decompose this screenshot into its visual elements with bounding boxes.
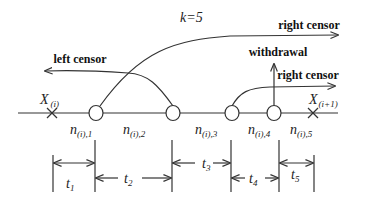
node-label-4: n(i),4 bbox=[248, 122, 271, 139]
node-circle-4 bbox=[267, 106, 281, 121]
node-circle-1 bbox=[89, 106, 103, 121]
node-circle-3 bbox=[225, 106, 239, 121]
right-censor-bottom-label: right censor bbox=[277, 68, 339, 82]
right-censor-top-label: right censor bbox=[278, 18, 340, 32]
interval-label-t1: t1 bbox=[66, 176, 74, 193]
interval-label-t5: t5 bbox=[291, 167, 300, 184]
node-circle-2 bbox=[166, 106, 180, 121]
cross-label-x-i-plus-1: X(i+1) bbox=[308, 92, 338, 109]
k-label: k=5 bbox=[180, 10, 203, 25]
node-label-5: n(i),5 bbox=[290, 122, 313, 139]
cross-label-x-i: X(i) bbox=[39, 92, 59, 109]
interval-label-t3: t3 bbox=[202, 156, 211, 173]
interval-label-t4: t4 bbox=[249, 171, 258, 188]
left-censor-label: left censor bbox=[54, 52, 108, 66]
left-censor-arrow bbox=[45, 71, 173, 106]
withdrawal-label: withdrawal bbox=[249, 45, 308, 59]
node-label-1: n(i),1 bbox=[70, 122, 92, 139]
censoring-diagram: k=5 X(i) X(i+1) right censor left censor… bbox=[0, 0, 386, 204]
node-label-2: n(i),2 bbox=[123, 122, 146, 139]
node-label-3: n(i),3 bbox=[195, 122, 218, 139]
interval-label-t2: t2 bbox=[124, 171, 133, 188]
